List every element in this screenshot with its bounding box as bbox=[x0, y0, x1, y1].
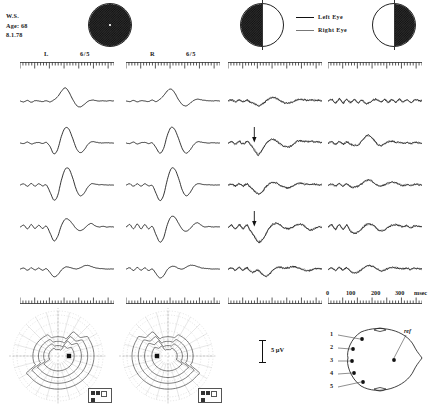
trace-left-eye-channel-2 bbox=[228, 139, 322, 156]
trace-row-channel-1 bbox=[328, 83, 424, 125]
trace-column-4 bbox=[328, 62, 424, 297]
patient-info: W.S. Age: 68 8.1.78 bbox=[6, 11, 28, 40]
electrode-dot-5 bbox=[361, 380, 365, 384]
key-symbol-filled bbox=[91, 391, 95, 395]
legend-swatch-right-eye bbox=[296, 30, 314, 31]
trace-left-eye-channel-5 bbox=[126, 265, 220, 278]
time-ruler-bottom bbox=[20, 295, 114, 304]
trace-column-1 bbox=[20, 62, 116, 297]
trace-column-2 bbox=[126, 62, 222, 297]
electrode-placement-diagram: 1 2 3 4 5 ref bbox=[328, 318, 428, 404]
isopter-contour-1 bbox=[27, 332, 94, 389]
key-symbol-open bbox=[101, 391, 107, 397]
patient-initials: W.S. bbox=[6, 11, 28, 21]
visual-field-left-eye bbox=[2, 308, 115, 407]
trace-left-eye-channel-5 bbox=[328, 265, 422, 273]
trace-row-channel-3 bbox=[328, 167, 424, 209]
trace-row-channel-5 bbox=[328, 251, 424, 293]
trace-right-eye-channel-5 bbox=[228, 266, 322, 276]
trace-row-channel-2 bbox=[328, 125, 424, 167]
trace-left-eye-channel-2 bbox=[328, 134, 422, 146]
legend-entry-left-eye: Left Eye bbox=[296, 11, 347, 24]
time-axis-unit: msec bbox=[414, 289, 427, 296]
trace-legend: Left Eye Right Eye bbox=[296, 11, 347, 37]
trace-left-eye-channel-4 bbox=[228, 223, 322, 244]
scale-bar-line bbox=[262, 340, 263, 362]
trace-row-channel-3 bbox=[20, 167, 116, 209]
time-ruler-top bbox=[20, 62, 114, 71]
visual-field-right-key bbox=[198, 388, 222, 403]
key-symbol-filled bbox=[201, 391, 205, 395]
key-symbol-filled bbox=[96, 391, 100, 395]
trace-right-eye-channel-4 bbox=[228, 223, 322, 242]
trace-row-channel-4 bbox=[20, 209, 116, 251]
vep-figure: W.S. Age: 68 8.1.78 Left Eye Right Eye L… bbox=[0, 0, 430, 407]
time-ruler-top bbox=[126, 62, 220, 71]
column-1-acuity: 6/5 bbox=[80, 50, 90, 57]
arrow-marker-channel-4 bbox=[252, 211, 256, 227]
trace-row-channel-5 bbox=[228, 251, 324, 293]
trace-left-eye-channel-3 bbox=[328, 179, 422, 188]
key-symbol-open bbox=[211, 391, 217, 397]
patient-age: Age: 68 bbox=[6, 21, 28, 31]
time-tick-100: 100 bbox=[346, 289, 355, 296]
time-tick-300: 300 bbox=[395, 289, 404, 296]
column-2-acuity: 6/5 bbox=[186, 50, 196, 57]
trace-row-channel-3 bbox=[126, 167, 222, 209]
scale-bar-bottom-cap bbox=[259, 362, 266, 363]
trace-left-eye-channel-1 bbox=[126, 89, 220, 106]
scale-bar-label: 5 µV bbox=[271, 346, 284, 353]
trace-left-eye-channel-2 bbox=[126, 127, 220, 153]
electrode-dot-3 bbox=[350, 359, 354, 363]
arrow-marker-channel-2 bbox=[252, 127, 256, 143]
time-ruler-top bbox=[228, 62, 322, 71]
trace-left-eye-channel-4 bbox=[126, 216, 220, 242]
electrode-label-ref: ref bbox=[404, 328, 411, 334]
column-1-eye-label: L bbox=[44, 50, 49, 57]
trace-left-eye-channel-4 bbox=[328, 223, 422, 233]
right-half-field-checkerboard-stimulus-icon bbox=[372, 3, 416, 47]
time-ruler-top bbox=[328, 62, 422, 71]
trace-row-channel-4 bbox=[328, 209, 424, 251]
trace-left-eye-channel-1 bbox=[228, 97, 322, 106]
key-symbol-filled bbox=[206, 391, 210, 395]
recording-date: 8.1.78 bbox=[6, 30, 28, 40]
full-field-checkerboard-stimulus-icon bbox=[88, 3, 132, 47]
electrode-label-2: 2 bbox=[330, 343, 333, 350]
time-axis: 0 100 200 300 msec bbox=[326, 289, 430, 300]
legend-label-right-eye: Right Eye bbox=[318, 24, 347, 37]
trace-row-channel-2 bbox=[20, 125, 116, 167]
trace-row-channel-1 bbox=[20, 83, 116, 125]
trace-left-eye-channel-2 bbox=[20, 127, 114, 153]
electrode-label-4: 4 bbox=[330, 369, 333, 376]
electrode-dot-1 bbox=[360, 337, 364, 341]
amplitude-scale-bar: 5 µV bbox=[258, 338, 304, 368]
trace-row-channel-3 bbox=[228, 167, 324, 209]
time-ruler-bottom bbox=[228, 295, 322, 304]
time-tick-0: 0 bbox=[326, 289, 329, 296]
electrode-dot-2 bbox=[351, 347, 355, 351]
trace-row-channel-1 bbox=[126, 83, 222, 125]
legend-label-left-eye: Left Eye bbox=[318, 11, 343, 24]
electrode-label-3: 3 bbox=[330, 356, 333, 363]
trace-row-channel-1 bbox=[228, 83, 324, 125]
legend-entry-right-eye: Right Eye bbox=[296, 24, 347, 37]
trace-left-eye-channel-3 bbox=[126, 168, 220, 201]
legend-swatch-left-eye bbox=[296, 17, 314, 18]
time-ruler-bottom bbox=[126, 295, 220, 304]
trace-row-channel-2 bbox=[126, 125, 222, 167]
electrode-dot-4 bbox=[352, 371, 356, 375]
visual-field-left-key bbox=[88, 388, 112, 403]
column-2-eye-label: R bbox=[150, 50, 155, 57]
trace-left-eye-channel-3 bbox=[228, 182, 322, 195]
visual-field-right-eye bbox=[112, 308, 225, 407]
trace-column-3 bbox=[228, 62, 324, 297]
trace-left-eye-channel-5 bbox=[20, 265, 114, 277]
time-axis-labels: 0 100 200 300 msec bbox=[326, 289, 430, 300]
trace-left-eye-channel-5 bbox=[228, 266, 322, 277]
time-tick-200: 200 bbox=[371, 289, 380, 296]
key-symbol-filled bbox=[201, 398, 205, 402]
trace-row-channel-5 bbox=[20, 251, 116, 293]
trace-row-channel-4 bbox=[228, 209, 324, 251]
trace-row-channel-2 bbox=[228, 125, 324, 167]
